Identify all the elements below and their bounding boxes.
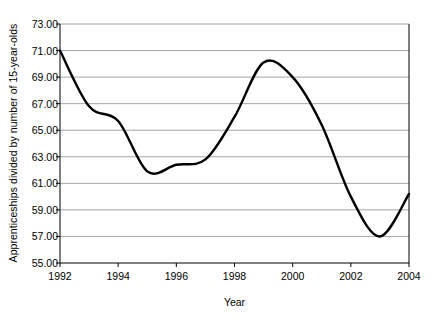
x-tick-label: 1996	[152, 270, 200, 282]
x-tick-label: 1994	[94, 270, 142, 282]
x-tick-label: 2004	[385, 270, 433, 282]
x-tick-label: 2002	[327, 270, 375, 282]
axis-ticks	[56, 24, 409, 267]
x-axis-title: Year	[60, 296, 409, 308]
line-chart: Apprenticeships divided by number of 15-…	[0, 0, 445, 321]
data-line-series-1	[60, 51, 409, 237]
axis-frame	[60, 24, 409, 263]
gridlines	[60, 24, 409, 236]
x-tick-label: 1992	[36, 270, 84, 282]
x-tick-label: 1998	[211, 270, 259, 282]
x-tick-label: 2000	[269, 270, 317, 282]
